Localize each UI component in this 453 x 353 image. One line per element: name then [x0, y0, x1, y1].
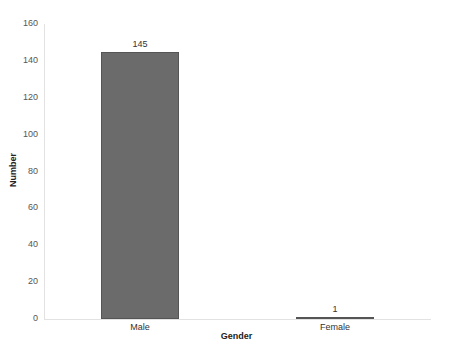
bar-male: [101, 52, 179, 319]
y-tick-label: 120: [8, 92, 38, 102]
data-label: 1: [295, 304, 375, 314]
y-tick-label: 40: [8, 239, 38, 249]
y-tick-label: 140: [8, 55, 38, 65]
x-axis-title: Gender: [0, 331, 453, 341]
y-axis-title: Number: [8, 153, 18, 187]
bar-female: [296, 317, 374, 319]
y-tick-label: 0: [8, 313, 38, 323]
bar-chart: 020406080100120140160 145Male1Female Gen…: [0, 0, 453, 353]
y-tick-label: 20: [8, 276, 38, 286]
data-label: 145: [100, 39, 180, 49]
y-axis-line: [44, 24, 45, 320]
y-tick-label: 100: [8, 129, 38, 139]
y-tick-label: 160: [8, 18, 38, 28]
y-tick-label: 60: [8, 202, 38, 212]
